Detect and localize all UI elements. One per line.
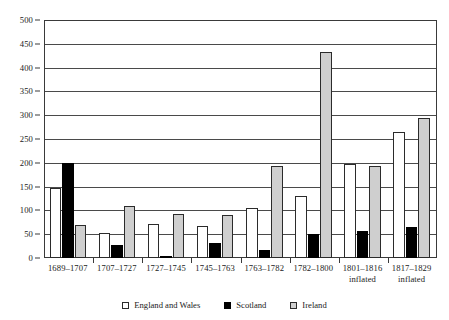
y-tick-label: 50 bbox=[24, 230, 33, 239]
legend-label: England and Wales bbox=[134, 301, 200, 310]
y-tick-mark bbox=[35, 186, 40, 187]
y-tick-mark bbox=[35, 91, 40, 92]
legend-swatch-ew bbox=[122, 302, 129, 309]
legend-label: Ireland bbox=[302, 301, 326, 310]
y-tick-mark bbox=[35, 67, 40, 68]
gridline bbox=[45, 91, 436, 92]
y-tick-label: 450 bbox=[20, 40, 33, 49]
x-group-label-period: 1707–1727 bbox=[97, 263, 137, 273]
gridline bbox=[45, 163, 436, 164]
y-tick-label: 500 bbox=[20, 16, 33, 25]
grouped-bar-chart: 050100150200250300350400450500 1689–1707… bbox=[0, 0, 449, 320]
y-axis: 050100150200250300350400450500 bbox=[0, 20, 40, 258]
x-group-label-period: 1763–1782 bbox=[244, 263, 284, 273]
plot-area bbox=[44, 20, 437, 258]
y-tick-mark bbox=[35, 210, 40, 211]
gridline bbox=[45, 210, 436, 211]
legend-item: England and Wales bbox=[122, 301, 200, 310]
x-group-label: 1763–1782 bbox=[244, 263, 284, 274]
y-tick-mark bbox=[35, 139, 40, 140]
x-group-label-note: inflated bbox=[343, 274, 383, 285]
gridline bbox=[45, 115, 436, 116]
legend-swatch-ire bbox=[290, 302, 297, 309]
y-tick-mark bbox=[35, 115, 40, 116]
y-tick-mark bbox=[35, 258, 40, 259]
gridline bbox=[45, 44, 436, 45]
y-tick-label: 200 bbox=[20, 159, 33, 168]
y-tick-label: 150 bbox=[20, 182, 33, 191]
y-tick-label: 0 bbox=[29, 254, 33, 263]
legend-item: Ireland bbox=[290, 301, 326, 310]
gridline bbox=[45, 139, 436, 140]
y-tick-label: 100 bbox=[20, 206, 33, 215]
y-tick-mark bbox=[35, 234, 40, 235]
y-tick-label: 300 bbox=[20, 111, 33, 120]
x-group-label: 1727–1745 bbox=[146, 263, 186, 274]
x-group-label: 1707–1727 bbox=[97, 263, 137, 274]
x-group-label: 1801–1816inflated bbox=[343, 263, 383, 284]
x-group-label-note: inflated bbox=[392, 274, 432, 285]
x-group-label: 1745–1763 bbox=[195, 263, 235, 274]
legend-item: Scotland bbox=[224, 301, 266, 310]
gridline bbox=[45, 234, 436, 235]
y-tick-label: 400 bbox=[20, 63, 33, 72]
y-tick-label: 350 bbox=[20, 87, 33, 96]
x-axis-labels: 1689–17071707–17271727–17451745–17631763… bbox=[44, 263, 437, 297]
x-group-label: 1689–1707 bbox=[48, 263, 88, 274]
gridline bbox=[45, 187, 436, 188]
x-group-label-period: 1727–1745 bbox=[146, 263, 186, 273]
legend-label: Scotland bbox=[236, 301, 266, 310]
x-group-label-period: 1817–1829 bbox=[392, 263, 432, 273]
y-tick-mark bbox=[35, 162, 40, 163]
x-group-label-period: 1801–1816 bbox=[343, 263, 383, 273]
y-tick-label: 250 bbox=[20, 135, 33, 144]
x-group-label-period: 1689–1707 bbox=[48, 263, 88, 273]
x-group-label-period: 1745–1763 bbox=[195, 263, 235, 273]
y-tick-mark bbox=[35, 43, 40, 44]
x-group-label: 1817–1829inflated bbox=[392, 263, 432, 284]
chart-legend: England and WalesScotlandIreland bbox=[0, 297, 449, 313]
legend-swatch-scot bbox=[224, 302, 231, 309]
y-tick-mark bbox=[35, 20, 40, 21]
x-group-label: 1782–1800 bbox=[294, 263, 334, 274]
gridline bbox=[45, 68, 436, 69]
x-group-label-period: 1782–1800 bbox=[294, 263, 334, 273]
